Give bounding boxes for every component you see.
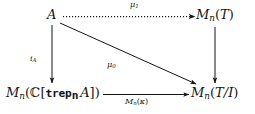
mn-kappa-paren-close: )	[145, 97, 148, 106]
mn-kappa-base: M	[125, 97, 133, 106]
arrow-diagonal	[60, 23, 196, 84]
trep-operator-subscript: n	[72, 89, 79, 102]
node-a-label: A	[47, 7, 56, 22]
node-mn-ti-paren-close: )	[233, 85, 238, 100]
i-a-subscript: A	[33, 57, 37, 63]
node-a: A	[47, 8, 56, 21]
node-mn-t-base: M	[196, 7, 209, 22]
node-mn-trep-paren-close: )	[95, 85, 100, 100]
node-mn-trep-variable: A	[80, 85, 89, 100]
blackboard-c-symbol: ℂ	[30, 85, 40, 100]
node-mn-ti-base: M	[191, 85, 204, 100]
node-mn-c-trep-n-a: Mn(ℂ[trepnA])	[6, 86, 100, 102]
arrow-label-mu-0: μ0	[107, 61, 116, 70]
node-mn-t-paren-close: )	[229, 7, 234, 22]
node-mn-t-mod-i: Mn(T/I)	[191, 86, 238, 101]
mu-0-subscript: 0	[112, 63, 115, 69]
trep-operator-label: trep	[46, 87, 72, 100]
node-mn-t-argument: T	[220, 7, 229, 22]
node-mn-trep-base: M	[6, 85, 19, 100]
arrow-label-mn-kappa: Mn(κ)	[125, 98, 148, 107]
arrow-label-mu-1: μ1	[130, 1, 139, 10]
node-mn-ti-argument: T/I	[215, 85, 233, 100]
commutative-diagram: A Mn(T) Mn(ℂ[trepnA]) Mn(T/I) μ1 iA μ0 M…	[0, 0, 255, 114]
node-mn-t: Mn(T)	[196, 8, 234, 23]
arrow-label-i-a: iA	[30, 55, 37, 64]
mu-1-subscript: 1	[135, 3, 138, 9]
